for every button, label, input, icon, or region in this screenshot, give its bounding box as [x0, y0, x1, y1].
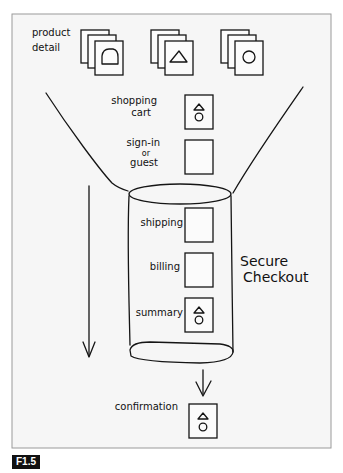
flow-sketch: product detail shopping cart sign-in or … — [0, 0, 343, 473]
product-detail-label-line1: product — [32, 27, 71, 38]
sign-in-label-1: sign-in — [127, 137, 160, 148]
summary-label: summary — [136, 307, 183, 318]
sign-in-screen — [185, 140, 213, 174]
confirmation-label: confirmation — [115, 401, 178, 412]
figure-label: F1.5 — [12, 455, 40, 469]
billing-screen — [185, 253, 213, 287]
sign-in-label-3: guest — [130, 157, 158, 168]
confirmation-screen — [189, 404, 217, 438]
shipping-label: shipping — [141, 217, 184, 228]
shopping-cart-screen — [185, 95, 213, 129]
product-detail-label-line2: detail — [32, 42, 60, 53]
shopping-cart-label-2: cart — [131, 107, 151, 118]
shopping-cart-label-1: shopping — [111, 95, 157, 106]
paper-frame — [12, 14, 331, 448]
secure-checkout-label-1: Secure — [240, 253, 288, 269]
billing-label: billing — [150, 261, 180, 272]
secure-checkout-label-2: Checkout — [243, 269, 309, 285]
shipping-screen — [185, 208, 213, 242]
summary-screen — [185, 298, 213, 332]
